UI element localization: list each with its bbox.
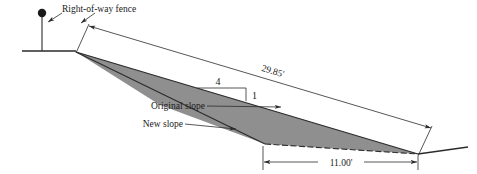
diagram-canvas: Right-of-way fence 4 1 29.85' Original s… [0, 0, 477, 174]
fence-leader-to-crest [81, 13, 95, 23]
slope-wedge [76, 52, 418, 154]
slope-label-group: 29.85' [247, 57, 299, 84]
ground-line-right [418, 147, 468, 154]
original-slope-label: Original slope [151, 101, 205, 111]
original-slope-line [76, 52, 418, 154]
new-slope-label: New slope [143, 119, 183, 129]
fence-leader-to-post [48, 13, 62, 22]
fence-label-leaders [48, 13, 95, 23]
slope-diagram-figure: Right-of-way fence 4 1 29.85' Original s… [0, 0, 477, 174]
slope-rise-label: 1 [252, 90, 257, 101]
right-of-way-fence-label: Right-of-way fence [62, 4, 136, 14]
dim-extension-left [76, 24, 89, 53]
fence-post [38, 9, 46, 51]
new-slope-line [76, 52, 265, 144]
dim-extension-right [418, 126, 432, 156]
fence-post-cap-icon [38, 9, 46, 17]
base-width-label-front: 11.00' [330, 158, 353, 168]
slope-run-label: 4 [216, 76, 221, 87]
